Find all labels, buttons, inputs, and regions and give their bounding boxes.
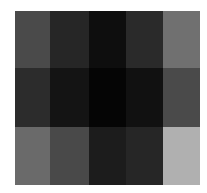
heatmap-cell-r2-c3: [126, 127, 163, 185]
heatmap-cell-r1-c1: [50, 68, 89, 127]
heatmap-cell-r2-c4: [163, 127, 200, 185]
heatmap-cell-r1-c3: [126, 68, 163, 127]
heatmap-cell-r0-c1: [50, 11, 89, 68]
heatmap-cell-r2-c2: [89, 127, 126, 185]
heatmap-cell-r1-c2: [89, 68, 126, 127]
heatmap-cell-r2-c1: [50, 127, 89, 185]
heatmap-cell-r0-c4: [163, 11, 200, 68]
heatmap-cell-r0-c2: [89, 11, 126, 68]
heatmap-cell-r1-c4: [163, 68, 200, 127]
heatmap-cell-r0-c3: [126, 11, 163, 68]
heatmap-grid: [15, 11, 200, 185]
heatmap-cell-r1-c0: [15, 68, 50, 127]
heatmap-cell-r2-c0: [15, 127, 50, 185]
heatmap-cell-r0-c0: [15, 11, 50, 68]
